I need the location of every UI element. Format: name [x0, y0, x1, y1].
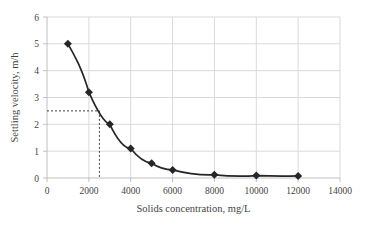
y-tick-label: 2 [34, 120, 39, 130]
y-tick-label: 0 [34, 174, 39, 184]
y-axis-title: Settling velocity, m/h [9, 52, 20, 143]
y-tick-label: 6 [34, 13, 39, 23]
x-tick-label: 12000 [286, 186, 310, 196]
x-tick-label: 4000 [121, 186, 140, 196]
x-tick-label: 10000 [244, 186, 268, 196]
x-axis-title: Solids concentration, mg/L [136, 203, 250, 214]
settling-velocity-chart: 6 5 4 3 2 1 0 0 2000 4000 6000 8000 1000… [0, 0, 370, 227]
x-tick-label: 0 [45, 186, 50, 196]
x-tick-label: 14000 [328, 186, 352, 196]
chart-background [0, 0, 370, 227]
y-tick-label: 5 [34, 39, 39, 49]
x-tick-label: 6000 [163, 186, 182, 196]
y-tick-label: 1 [34, 147, 39, 157]
y-tick-label: 3 [34, 93, 39, 103]
x-tick-label: 8000 [205, 186, 224, 196]
y-tick-label: 4 [34, 66, 39, 76]
chart-figure: 6 5 4 3 2 1 0 0 2000 4000 6000 8000 1000… [0, 0, 370, 227]
x-tick-label: 2000 [79, 186, 98, 196]
